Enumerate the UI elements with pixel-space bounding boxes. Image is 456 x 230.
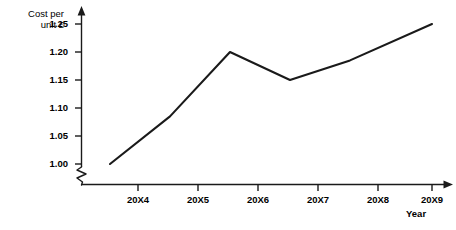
y-axis-arrowhead	[78, 6, 86, 16]
y-axis-break-symbol	[77, 167, 86, 185]
data-series-line	[110, 24, 432, 164]
y-tick-label-3: 1.10	[38, 102, 68, 113]
y-tick-label-2: 1.15	[38, 74, 68, 85]
y-tick-label-1: 1.20	[38, 46, 68, 57]
x-tick-label-20x9: 20X9	[410, 194, 454, 205]
x-axis-ticks	[138, 185, 432, 192]
y-tick-label-4: 1.05	[38, 130, 68, 141]
x-tick-label-20x5: 20X5	[176, 194, 220, 205]
x-tick-label-20x8: 20X8	[356, 194, 400, 205]
y-tick-label-5: 1.00	[38, 158, 68, 169]
y-axis-ticks	[75, 24, 82, 164]
line-chart: Cost per unit £ Year	[0, 0, 456, 230]
x-tick-label-20x7: 20X7	[296, 194, 340, 205]
y-tick-label-0: 1.25	[38, 18, 68, 29]
x-tick-label-20x4: 20X4	[116, 194, 160, 205]
x-axis-arrowhead	[444, 181, 454, 189]
x-tick-label-20x6: 20X6	[236, 194, 280, 205]
